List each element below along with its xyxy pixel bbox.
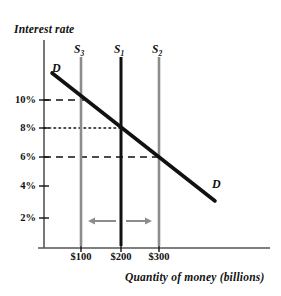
supply-label-sub-s1: 1 [120,49,124,58]
x-tick-label-300: $300 [138,252,180,263]
y-axis-title: Interest rate [14,24,74,36]
y-tick-label-4: 4% [6,181,36,192]
demand-curve [52,73,215,201]
y-tick-label-2: 2% [6,213,36,224]
y-tick-label-10: 10% [6,95,36,106]
supply-curve-label-s2: S2 [152,44,162,56]
shift-right-arrow-icon [126,218,152,225]
shift-left-arrow-icon [88,218,116,225]
supply-curve-label-s1: S1 [114,44,124,56]
supply-curve-label-s3: S3 [74,44,84,56]
x-axis-title: Quantity of money (billions) [125,272,264,284]
x-tick-label-200: $200 [100,252,142,263]
demand-curve-label-bottom: D [212,178,221,190]
money-market-chart: Interest rate Quantity of money (billion… [0,0,281,296]
y-tick-label-6: 6% [6,152,36,163]
x-tick-label-100: $100 [60,252,102,263]
demand-curve-label-top: D [52,62,61,74]
supply-label-sub-s3: 3 [80,49,84,58]
supply-label-sub-s2: 2 [158,49,162,58]
y-tick-label-8: 8% [6,123,36,134]
